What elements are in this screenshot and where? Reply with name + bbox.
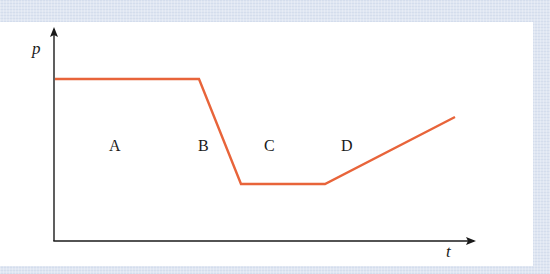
- region-label-a: A: [109, 137, 121, 154]
- pressure-curve: [55, 79, 455, 184]
- x-axis-label: t: [446, 242, 452, 261]
- region-label-c: C: [264, 137, 275, 154]
- y-axis-label: p: [31, 39, 41, 58]
- pressure-time-diagram: p t A B C D: [0, 0, 550, 274]
- region-label-b: B: [198, 137, 209, 154]
- region-label-d: D: [341, 137, 353, 154]
